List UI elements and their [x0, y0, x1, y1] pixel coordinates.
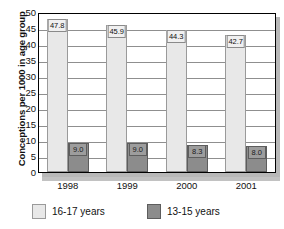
bar-value-label: 45.9 [107, 25, 126, 38]
bar: 45.9 [106, 25, 127, 172]
y-tick-label: 5 [31, 152, 36, 162]
y-tick-label: 45 [25, 24, 36, 34]
chart-legend: 16-17 years13-15 years [0, 202, 284, 226]
y-tick-label: 35 [25, 56, 36, 66]
y-tick-label: 15 [25, 120, 36, 130]
bar-value-label: 47.8 [48, 19, 67, 32]
bar-value-label: 42.7 [226, 35, 245, 48]
legend-item: 13-15 years [147, 204, 220, 219]
bars-layer: 47.89.045.99.044.38.342.78.0 [39, 14, 275, 172]
bar: 9.0 [68, 143, 89, 172]
legend-label: 16-17 years [52, 207, 105, 217]
bar: 44.3 [166, 30, 187, 172]
bar-value-label: 9.0 [69, 143, 87, 156]
y-tick-label: 40 [25, 40, 36, 50]
y-tick-label: 20 [25, 104, 36, 114]
bar: 9.0 [127, 143, 148, 172]
bar-value-label: 8.0 [248, 146, 266, 159]
bar: 8.0 [246, 146, 267, 172]
bar-value-label: 44.3 [167, 30, 186, 43]
x-tick-label: 1999 [117, 181, 138, 191]
y-axis-tick-labels: 05101520253035404550 [16, 13, 36, 173]
y-tick-label: 30 [25, 72, 36, 82]
legend-item: 16-17 years [32, 204, 105, 219]
bar: 42.7 [225, 35, 246, 172]
bar: 47.8 [47, 19, 68, 172]
x-tick-label: 2000 [176, 181, 197, 191]
x-tick-label: 1998 [57, 181, 78, 191]
plot-area: 47.89.045.99.044.38.342.78.0 [38, 13, 276, 173]
bar-value-label: 8.3 [188, 145, 206, 158]
bar-value-label: 9.0 [129, 143, 147, 156]
y-tick-label: 25 [25, 88, 36, 98]
y-tick-label: 10 [25, 136, 36, 146]
conceptions-bar-chart: Conceptions per 1000 in age group 051015… [0, 0, 284, 229]
bar: 8.3 [187, 145, 208, 172]
x-tick-label: 2001 [236, 181, 257, 191]
y-tick-label: 50 [25, 8, 36, 18]
legend-swatch [32, 204, 46, 219]
y-tick-label: 0 [31, 168, 36, 178]
x-axis-tick-labels: 1998199920002001 [38, 181, 276, 197]
legend-label: 13-15 years [167, 207, 220, 217]
legend-swatch [147, 204, 161, 219]
